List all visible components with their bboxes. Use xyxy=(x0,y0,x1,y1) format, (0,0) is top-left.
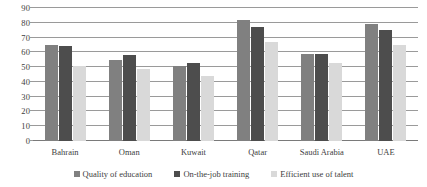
bar-group xyxy=(33,8,97,141)
y-tick-label: 80 xyxy=(2,19,30,28)
bar xyxy=(187,63,200,141)
y-tick-label: 0 xyxy=(2,137,30,146)
bar xyxy=(59,46,72,141)
x-tick-label: Bahrain xyxy=(52,146,79,158)
bar xyxy=(123,55,136,141)
plot-area xyxy=(33,8,418,141)
x-tick-label: UAE xyxy=(377,146,394,158)
y-tick-label: 90 xyxy=(2,4,30,13)
legend-item[interactable]: Efficient use of talent xyxy=(271,170,353,179)
bar-group xyxy=(161,8,225,141)
bar xyxy=(379,30,392,141)
bar xyxy=(301,54,314,141)
legend-swatch-icon xyxy=(74,171,80,177)
y-tick-label: 30 xyxy=(2,93,30,102)
bar xyxy=(109,60,122,141)
x-tick-label: Saudi Arabia xyxy=(300,146,344,158)
legend-label: Efficient use of talent xyxy=(280,170,353,179)
plot-region: 9080706050403020100 xyxy=(0,0,427,145)
bars-layer xyxy=(33,8,418,141)
bar xyxy=(73,66,86,141)
bar-group xyxy=(97,8,161,141)
bar xyxy=(173,66,186,141)
legend-swatch-icon xyxy=(174,171,180,177)
y-tick-label: 60 xyxy=(2,48,30,57)
legend-item[interactable]: Quality of education xyxy=(74,170,153,179)
legend-item[interactable]: On-the-job training xyxy=(174,170,249,179)
bar xyxy=(137,69,150,141)
y-tick-label: 70 xyxy=(2,34,30,43)
bar-group xyxy=(290,8,354,141)
bar xyxy=(237,20,250,141)
legend-swatch-icon xyxy=(271,171,277,177)
bar xyxy=(393,45,406,141)
bar xyxy=(251,27,264,141)
x-tick-label: Qatar xyxy=(248,146,267,158)
bar xyxy=(329,63,342,141)
x-axis: BahrainOmanKuwaitQatarSaudi ArabiaUAE xyxy=(33,146,418,162)
bar-chart: 9080706050403020100 BahrainOmanKuwaitQat… xyxy=(0,0,427,187)
y-tick-label: 50 xyxy=(2,63,30,72)
bar xyxy=(45,45,58,141)
bar-group xyxy=(354,8,418,141)
bar xyxy=(201,76,214,141)
y-tick-label: 10 xyxy=(2,122,30,131)
x-tick-label: Kuwait xyxy=(181,146,206,158)
bar xyxy=(265,42,278,141)
bar xyxy=(365,24,378,141)
legend-label: Quality of education xyxy=(83,170,153,179)
y-tick-label: 40 xyxy=(2,78,30,87)
bar xyxy=(315,54,328,141)
legend-label: On-the-job training xyxy=(183,170,249,179)
chart-legend: Quality of educationOn-the-job trainingE… xyxy=(0,166,427,182)
y-tick-label: 20 xyxy=(2,107,30,116)
y-axis: 9080706050403020100 xyxy=(0,0,30,145)
bar-group xyxy=(226,8,290,141)
x-tick-label: Oman xyxy=(119,146,140,158)
